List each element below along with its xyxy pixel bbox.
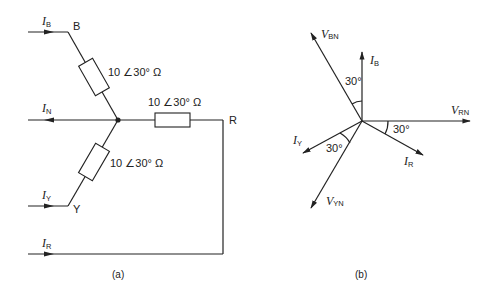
arrow-right-icon (44, 30, 54, 35)
current-label-ib: IB (41, 14, 51, 29)
angle-label-r: 30° (393, 123, 410, 135)
phasor-label-v-yn: VYN (326, 194, 344, 208)
line-b-input (28, 30, 68, 35)
caption-b: (b) (355, 269, 367, 280)
phasor-v-yn (311, 121, 362, 208)
arrow-right-icon (44, 252, 54, 257)
angle-label-b: 30° (345, 75, 362, 87)
phasor-diagram-b: 30° 30° 30° VBN IB VRN IR IY VYN (b) (292, 27, 470, 280)
current-label-in: IN (41, 101, 51, 116)
phasor-label-i-b: IB (369, 53, 379, 68)
impedance-label-b: 10 ∠30° Ω (108, 66, 161, 78)
phasor-label-i-y: IY (292, 133, 302, 148)
node-label-y: Y (73, 203, 81, 215)
angle-arc-r (385, 121, 388, 134)
angle-arc-b (352, 101, 362, 104)
arrow-left-icon (44, 118, 54, 123)
impedance-label-r: 10 ∠30° Ω (148, 96, 201, 108)
node-label-b: B (73, 20, 80, 32)
phasor-label-i-r: IR (403, 154, 414, 169)
impedance-r (155, 113, 190, 127)
impedance-b (79, 58, 110, 95)
current-label-ir: IR (41, 236, 52, 251)
current-label-iy: IY (41, 188, 51, 203)
phasor-label-v-bn: VBN (321, 27, 339, 41)
impedance-y (79, 143, 110, 180)
phasor-label-v-rn: VRN (451, 103, 469, 117)
angle-label-y: 30° (326, 142, 343, 154)
circuit-a: IB B 10 ∠30° Ω IN 10 ∠30° Ω R 10 ∠30° Ω … (28, 14, 237, 280)
node-label-r: R (229, 114, 237, 126)
arrow-right-icon (44, 204, 54, 209)
impedance-label-y: 10 ∠30° Ω (110, 157, 163, 169)
three-phase-star-diagram: IB B 10 ∠30° Ω IN 10 ∠30° Ω R 10 ∠30° Ω … (0, 0, 494, 295)
caption-a: (a) (112, 269, 124, 280)
